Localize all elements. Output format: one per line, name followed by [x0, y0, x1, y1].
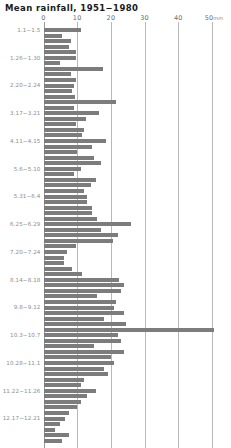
y-axis-label: 2.20−2.24: [0, 82, 41, 88]
x-tick-label-20: 20: [107, 14, 116, 22]
bar: [44, 272, 83, 276]
bar: [44, 239, 113, 243]
bar: [44, 139, 106, 143]
bar: [44, 317, 105, 321]
bar: [44, 328, 214, 332]
bar: [44, 78, 76, 82]
bar: [44, 217, 98, 221]
bar: [44, 122, 76, 126]
x-tick-label-40: 40: [174, 14, 183, 22]
bar: [44, 50, 76, 54]
y-axis-label: 3.17−3.21: [0, 110, 41, 116]
bar: [44, 72, 71, 76]
y-axis-label: 8.14−8.18: [0, 277, 41, 283]
bar: [44, 56, 76, 60]
bar: [44, 178, 96, 182]
bar: [44, 372, 108, 376]
bar: [44, 206, 93, 210]
y-axis-label: 11.22−11.26: [0, 388, 41, 394]
bar: [44, 39, 71, 43]
x-axis-unit-label: mm: [213, 15, 223, 21]
y-axis-label: 10.3−10.7: [0, 332, 41, 338]
bar: [44, 106, 74, 110]
bar: [44, 95, 75, 99]
bar: [44, 222, 132, 226]
bar: [44, 300, 117, 304]
bar: [44, 400, 81, 404]
bar: [44, 355, 111, 359]
bar: [44, 311, 125, 315]
bar: [44, 283, 125, 287]
bar: [44, 344, 95, 348]
bar: [44, 383, 81, 387]
bar: [44, 150, 78, 154]
bar: [44, 145, 93, 149]
bar: [44, 339, 122, 343]
bar: [44, 117, 86, 121]
bar: [44, 172, 74, 176]
gridline-30: [145, 22, 146, 448]
bar: [44, 389, 96, 393]
y-axis-label: 6.25−6.29: [0, 221, 41, 227]
bar: [44, 67, 103, 71]
bar: [44, 289, 122, 293]
y-axis-label: 12.17−12.21: [0, 415, 41, 421]
bar: [44, 183, 91, 187]
bar: [44, 306, 115, 310]
bar: [44, 34, 63, 38]
gridline-50: [212, 22, 213, 448]
bar: [44, 133, 83, 137]
bar: [44, 411, 69, 415]
bar: [44, 211, 93, 215]
bar: [44, 233, 118, 237]
x-tick-label-30: 30: [140, 14, 149, 22]
bar: [44, 405, 78, 409]
bar: [44, 250, 68, 254]
bar: [44, 267, 73, 271]
bar: [44, 89, 73, 93]
bar: [44, 294, 98, 298]
y-axis-label: 5.6−5.10: [0, 166, 41, 172]
bar: [44, 378, 84, 382]
bar: [44, 422, 61, 426]
x-tick-label-10: 10: [73, 14, 82, 22]
bar: [44, 394, 88, 398]
bar: [44, 167, 81, 171]
bar: [44, 61, 60, 65]
bar: [44, 428, 56, 432]
bar: [44, 256, 64, 260]
bar: [44, 28, 81, 32]
bar: [44, 439, 63, 443]
bar: [44, 228, 101, 232]
bar: [44, 189, 84, 193]
bar: [44, 350, 125, 354]
x-tick-label-50: 50mm: [205, 14, 223, 22]
bar: [44, 84, 74, 88]
bar: [44, 322, 127, 326]
y-axis-label: 1.26−1.30: [0, 55, 41, 61]
bar: [44, 433, 69, 437]
bar: [44, 278, 120, 282]
bar: [44, 244, 76, 248]
bar: [44, 195, 88, 199]
bar: [44, 156, 95, 160]
bar: [44, 333, 118, 337]
y-axis-label: 7.20−7.24: [0, 249, 41, 255]
bar: [44, 100, 117, 104]
bar: [44, 128, 84, 132]
y-axis-label: 1.1−1.5: [0, 27, 41, 33]
y-axis-label: 9.8−9.12: [0, 304, 41, 310]
bar: [44, 417, 66, 421]
bar: [44, 111, 100, 115]
y-axis-label: 10.28−11.1: [0, 360, 41, 366]
bar: [44, 367, 105, 371]
bar: [44, 45, 69, 49]
x-tick-label-0: 0: [41, 14, 45, 22]
bar: [44, 261, 64, 265]
bar: [44, 161, 101, 165]
bar: [44, 361, 115, 365]
y-axis-label: 5.31−6.4: [0, 193, 41, 199]
y-axis-label: 4.11−4.15: [0, 138, 41, 144]
bar: [44, 200, 88, 204]
